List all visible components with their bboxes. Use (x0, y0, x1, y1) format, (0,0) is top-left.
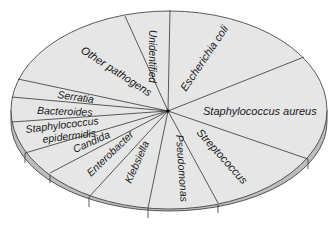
label-unidentified: Unidentified (147, 30, 158, 83)
pathogen-pie-chart: Unidentified Escherichia coli Staphyloco… (0, 0, 335, 228)
pie-hub (166, 109, 170, 113)
label-bacteroides: Bacteroides (37, 104, 94, 118)
label-staphylococcus-aureus: Staphylococcus aureus (203, 105, 317, 117)
